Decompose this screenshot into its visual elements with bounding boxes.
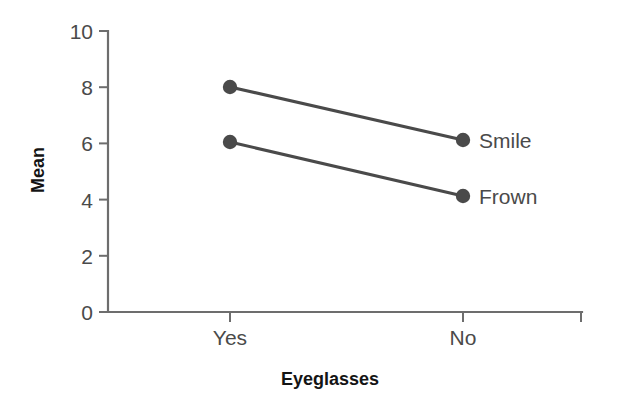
x-tick-label-yes: Yes: [213, 326, 247, 349]
series-frown-marker-yes: [223, 135, 237, 149]
x-axis-tick-labels: Yes No: [213, 326, 477, 349]
x-axis-title: Eyeglasses: [281, 369, 379, 389]
series-frown-label: Frown: [479, 185, 537, 208]
series-smile-label: Smile: [479, 129, 532, 152]
y-tick-label-8: 8: [81, 76, 93, 99]
x-axis-ticks: [230, 312, 463, 322]
series-frown-line: [230, 142, 463, 196]
y-tick-label-10: 10: [70, 20, 93, 43]
series-smile-marker-no: [456, 133, 470, 147]
series-frown-marker-no: [456, 189, 470, 203]
series-smile-line: [230, 87, 463, 140]
y-axis-tick-labels: 10 8 6 4 2 0: [70, 20, 94, 324]
y-tick-label-6: 6: [81, 132, 93, 155]
y-axis-ticks: [99, 31, 108, 312]
y-tick-label-0: 0: [81, 301, 93, 324]
y-tick-label-4: 4: [81, 189, 93, 212]
x-tick-label-no: No: [450, 326, 477, 349]
y-axis-title: Mean: [28, 147, 48, 193]
series-smile: Smile: [223, 80, 532, 152]
interaction-plot-figure: Mean 10 8 6 4 2 0: [0, 0, 625, 402]
chart-canvas: Mean 10 8 6 4 2 0: [0, 0, 625, 402]
series-smile-marker-yes: [223, 80, 237, 94]
y-tick-label-2: 2: [81, 245, 93, 268]
